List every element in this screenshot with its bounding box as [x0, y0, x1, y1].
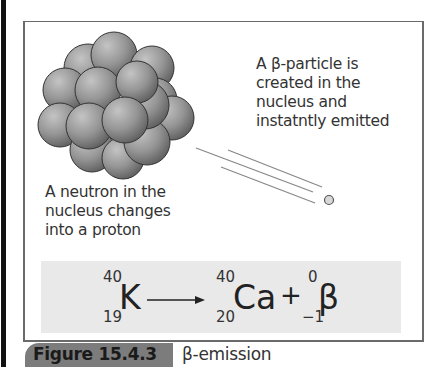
annotation-line: into a proton [45, 221, 225, 240]
beta-mass-number: 0 [308, 268, 318, 286]
figure-title: β-emission [182, 344, 271, 364]
annotation-line: nucleus changes [45, 202, 225, 221]
figure-label: Figure 15.4.3 [33, 344, 157, 364]
beta-symbol: β [318, 278, 339, 317]
ca-symbol: Ca [233, 278, 276, 317]
plus-sign: + [280, 280, 302, 310]
margin-bar [1, 0, 6, 367]
annotation-line: A β-particle is [256, 55, 436, 74]
k-symbol: K [119, 278, 141, 317]
annotation-line: instatntly emitted [256, 112, 436, 131]
reaction-arrow-icon [147, 294, 205, 306]
beta-particle-annotation: A β-particle is created in the nucleus a… [256, 55, 436, 131]
annotation-line: A neutron in the [45, 183, 225, 202]
neutron-annotation: A neutron in the nucleus changes into a … [45, 183, 225, 240]
annotation-line: nucleus and [256, 93, 436, 112]
annotation-line: created in the [256, 74, 436, 93]
